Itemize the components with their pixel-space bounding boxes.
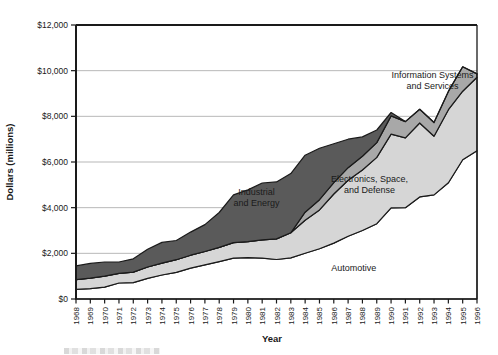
x-tick-label: 1978 <box>215 306 224 324</box>
x-tick-label: 1979 <box>230 306 239 324</box>
x-tick-label: 1968 <box>72 306 81 324</box>
x-tick-label: 1980 <box>244 306 253 324</box>
x-tick-label: 1993 <box>430 306 439 324</box>
area-series <box>76 67 477 299</box>
x-tick-label: 1986 <box>330 306 339 324</box>
y-tick-label: $6,000 <box>42 157 68 167</box>
x-tick-label: 1974 <box>158 306 167 324</box>
y-tick-label: $0 <box>59 294 69 304</box>
x-tick-label: 1970 <box>101 306 110 324</box>
x-tick-label: 1988 <box>358 306 367 324</box>
cropped-source-text <box>64 348 160 354</box>
x-tick-label: 1982 <box>273 306 282 324</box>
y-tick-label: $10,000 <box>37 66 68 76</box>
segment-label: Electronics, Space, <box>331 174 408 184</box>
y-axis-title: Dollars (millions) <box>4 123 15 200</box>
x-tick-label: 1983 <box>287 306 296 324</box>
y-tick-label: $2,000 <box>42 248 68 258</box>
x-tick-label: 1972 <box>129 306 138 324</box>
x-tick-label: 1981 <box>258 306 267 324</box>
segment-label: Industrial <box>238 187 275 197</box>
x-tick-label: 1973 <box>144 306 153 324</box>
x-tick-label: 1995 <box>459 306 468 324</box>
x-tick-label: 1992 <box>416 306 425 324</box>
x-tick-label: 1991 <box>401 306 410 324</box>
segment-label: and Services <box>407 81 460 91</box>
x-tick-label: 1996 <box>473 306 482 324</box>
y-tick-label: $8,000 <box>42 111 68 121</box>
x-tick-label: 1987 <box>344 306 353 324</box>
x-tick-label: 1976 <box>187 306 196 324</box>
x-tick-label: 1990 <box>387 306 396 324</box>
y-tick-label: $12,000 <box>37 20 68 30</box>
segment-label: and Defense <box>344 185 395 195</box>
figure-container: $0$2,000$4,000$6,000$8,000$10,000$12,000… <box>0 0 498 355</box>
x-tick-label: 1994 <box>444 306 453 324</box>
x-tick-label: 1969 <box>86 306 95 324</box>
x-axis-title: Year <box>262 333 282 344</box>
segment-label: Automotive <box>331 263 376 273</box>
x-tick-label: 1977 <box>201 306 210 324</box>
x-tick-label: 1985 <box>315 306 324 324</box>
stacked-area-chart: $0$2,000$4,000$6,000$8,000$10,000$12,000… <box>0 0 498 355</box>
segment-label: and Energy <box>233 198 280 208</box>
x-tick-label: 1975 <box>172 306 181 324</box>
x-tick-label: 1971 <box>115 306 124 324</box>
y-tick-label: $4,000 <box>42 203 68 213</box>
segment-label: Information Systems <box>392 70 475 80</box>
x-tick-label: 1984 <box>301 306 310 324</box>
x-tick-label: 1989 <box>373 306 382 324</box>
